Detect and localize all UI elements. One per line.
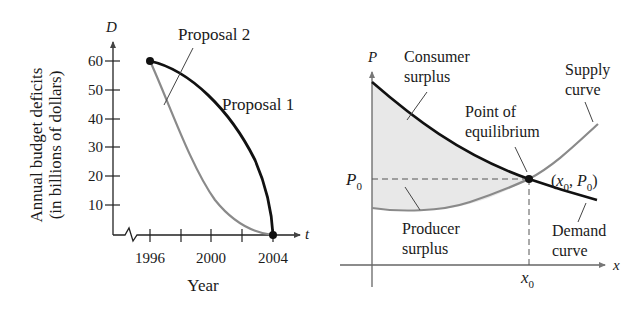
- consumer-surplus-leader: [407, 92, 427, 120]
- x-axis-title: Year: [187, 276, 219, 295]
- start-point: [146, 57, 154, 65]
- p0-label: P0: [345, 170, 362, 192]
- y-tick-10: 10: [88, 197, 103, 213]
- x-tick-2000: 2000: [196, 250, 226, 266]
- consumer-surplus-label-1: Consumer: [404, 48, 470, 65]
- x-tick-2004: 2004: [258, 250, 289, 266]
- p-axis-label: P: [367, 49, 377, 65]
- equilibrium-label-1: Point of: [465, 103, 517, 120]
- y-tick-20: 20: [88, 168, 103, 184]
- proposal-1-curve: [150, 61, 273, 235]
- y-tick-50: 50: [88, 82, 103, 98]
- consumer-surplus-label-2: surplus: [404, 68, 450, 86]
- proposal-2-label: Proposal 2: [178, 25, 250, 44]
- producer-surplus-label-1: Producer: [402, 220, 460, 237]
- y-axis-title-line2: (in billions of dollars): [46, 71, 65, 220]
- proposal-2-leader: [164, 48, 193, 105]
- equilibrium-leader: [515, 147, 527, 172]
- x-axis-label: x: [612, 257, 620, 273]
- producer-surplus-label-2: surplus: [402, 240, 448, 258]
- y-tick-60: 60: [88, 53, 103, 69]
- end-point: [269, 231, 277, 239]
- equilibrium-label-2: equilibrium: [465, 123, 540, 141]
- y-axis-title-line1: Annual budget deficits: [27, 68, 46, 223]
- proposal-2-curve: [150, 61, 273, 235]
- demand-leader: [578, 203, 586, 222]
- surplus-chart: P x P0 x0 Consumer surplus Producer surp…: [340, 48, 620, 290]
- equilibrium-point: [525, 175, 533, 183]
- supply-leader: [585, 102, 593, 122]
- d-axis-label: D: [105, 19, 117, 35]
- figure: D t 60 50 40 30 20 10: [0, 0, 625, 309]
- deficit-chart: D t 60 50 40 30 20 10: [27, 19, 310, 295]
- demand-label-1: Demand: [552, 222, 606, 239]
- t-axis-label: t: [305, 226, 310, 242]
- demand-label-2: curve: [552, 242, 588, 259]
- x0-label: x0: [520, 268, 535, 290]
- proposal-1-label: Proposal 1: [222, 95, 294, 114]
- supply-label-1: Supply: [565, 61, 610, 79]
- y-tick-40: 40: [88, 111, 103, 127]
- y-tick-30: 30: [88, 139, 103, 155]
- x-tick-1996: 1996: [135, 250, 166, 266]
- supply-label-2: curve: [565, 81, 601, 98]
